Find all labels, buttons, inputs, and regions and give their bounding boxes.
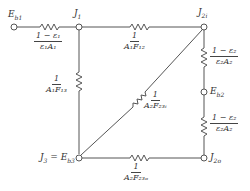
resistor-eb1-j1 xyxy=(17,24,76,30)
node-eb1 xyxy=(11,24,17,30)
value-r-j3-j2o: 1A₂F₂₃ₒ xyxy=(124,163,148,182)
value-r-j3-j2i: 1A₂F₂₃ᵢ xyxy=(144,91,167,110)
node-eb2 xyxy=(201,89,207,95)
radiation-network-diagram: Eb1 J1 J2i Eb2 J3 = Eb3 J2o 1 − ε₁ε₁A₁ 1… xyxy=(0,0,250,191)
label-j2o: J2o xyxy=(210,153,221,164)
value-r-j1-j3: 1A₁F₁₃ xyxy=(46,75,67,94)
label-j1: J1 xyxy=(74,9,81,20)
resistor-j3-j2o xyxy=(82,155,201,161)
label-j3: J3 = Eb3 xyxy=(40,153,75,164)
node-j1 xyxy=(76,24,82,30)
node-j2o xyxy=(201,155,207,161)
label-eb2: Eb2 xyxy=(210,87,224,98)
value-r-j1-j2i: 1A₁F₁₂ xyxy=(124,32,145,51)
value-r-eb2-j2o: 1 − ε₂ε₂A₂ xyxy=(210,114,238,133)
label-eb1: Eb1 xyxy=(8,10,22,21)
resistor-j1-j3 xyxy=(76,30,82,154)
resistor-j2i-eb2 xyxy=(201,30,207,89)
resistor-eb2-j2o xyxy=(201,95,207,155)
value-r-j2i-eb2: 1 − ε₂ε₂A₂ xyxy=(210,47,238,66)
node-j3 xyxy=(76,155,82,161)
label-j2i: J2i xyxy=(198,8,207,19)
value-r-eb1-j1: 1 − ε₁ε₁A₁ xyxy=(34,32,62,51)
node-j2i xyxy=(201,24,207,30)
resistor-j1-j2i xyxy=(82,24,201,30)
